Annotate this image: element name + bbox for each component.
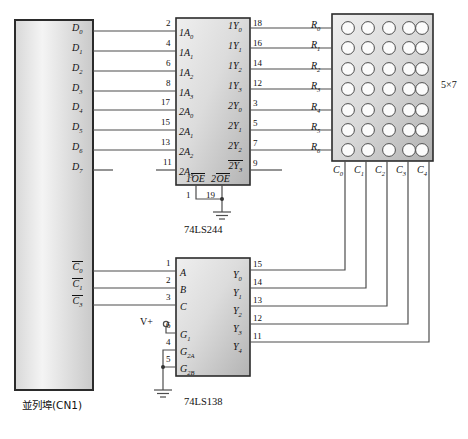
ls244-pinnum-9: 9 (253, 158, 258, 168)
junction-dot (161, 365, 165, 369)
ls244-output-1y1: 1Y1 (228, 40, 242, 53)
ls138-pinnum-11: 11 (253, 331, 262, 341)
ls244-output-2y0: 2Y0 (228, 100, 242, 113)
ls244-output-2y1: 2Y1 (228, 120, 242, 133)
junction-dot (220, 197, 224, 201)
ls244-output-1y0: 1Y0 (228, 20, 242, 33)
ls138-pinnum-2: 2 (166, 275, 171, 285)
matrix-row-r2: R2 (311, 60, 320, 73)
port-pin-d0: D0 (72, 22, 82, 35)
ls244-pinnum-18: 18 (253, 18, 262, 28)
column-select-wires (250, 161, 429, 342)
matrix-row-r4: R4 (311, 101, 320, 114)
ls138-pinnum-6: 6 (166, 320, 171, 330)
matrix-col-c0: C0 (333, 164, 343, 177)
matrix-col-c4: C4 (417, 164, 427, 177)
ls138-input-g2a: G2A (180, 346, 194, 359)
ls244-output-1y3: 1Y3 (228, 80, 242, 93)
matrix-col-c2: C2 (375, 164, 385, 177)
ls244-pinnum-12: 12 (253, 78, 262, 88)
ls138-input-g1: G1 (180, 329, 190, 342)
ls244-input-2a1: 2A1 (179, 126, 193, 139)
port-pin-d3: D3 (72, 82, 82, 95)
ls244-pinnum-2: 2 (166, 18, 171, 28)
ls138-caption: 74LS138 (184, 396, 223, 407)
ls244-pinnum-13: 13 (161, 137, 170, 147)
ls138-pinnum-12: 12 (253, 313, 262, 323)
ls244-input-1a2: 1A2 (179, 67, 193, 80)
ls244-enable-1oe: 1OE (186, 173, 205, 185)
ls244-caption: 74LS244 (184, 224, 223, 235)
ls244-pinnum-15: 15 (161, 117, 170, 127)
ls244-pinnum-8: 8 (166, 78, 171, 88)
ls244-pinnum-11: 11 (163, 157, 172, 167)
ls138-enable-ground (154, 350, 176, 397)
control-bus-wires (93, 271, 176, 305)
ls244-pinnum-7: 7 (253, 138, 258, 148)
port-pin-d7: D7 (72, 161, 82, 174)
matrix-row-r0: R0 (311, 19, 320, 32)
ls244-pinnum-19: 19 (206, 190, 215, 200)
ls138-pinnum-5: 5 (166, 354, 171, 364)
port-pin-d4: D4 (72, 101, 82, 114)
ls244-pinnum-5: 5 (253, 118, 258, 128)
ls138-output-y4: Y4 (233, 341, 242, 354)
port-pin-c0-bar: C0 (72, 261, 83, 275)
parallel-port-body (15, 20, 93, 390)
matrix-row-r1: R1 (311, 39, 320, 52)
ls138-pinnum-4: 4 (166, 337, 171, 347)
parallel-port-caption: 並列埠(CN1) (22, 397, 82, 412)
ls244-input-1a1: 1A1 (179, 47, 193, 60)
ls244-input-1a0: 1A0 (179, 27, 193, 40)
ls244-pinnum-17: 17 (161, 97, 170, 107)
port-pin-d6: D6 (72, 141, 82, 154)
ls244-pinnum-3: 3 (253, 98, 258, 108)
matrix-row-r5: R5 (311, 121, 320, 134)
ls138-pinnum-15: 15 (253, 259, 262, 269)
ls138-pinnum-3: 3 (166, 292, 171, 302)
port-pin-d2: D2 (72, 62, 82, 75)
ls244-pinnum-1: 1 (186, 190, 191, 200)
ls138-output-y0: Y0 (233, 269, 242, 282)
ls244-output-1y2: 1Y2 (228, 60, 242, 73)
ls244-pinnum-14: 14 (253, 58, 262, 68)
port-pin-c3-bar: C3 (72, 295, 83, 309)
matrix-row-r6: R6 (311, 141, 320, 154)
ls244-input-1a3: 1A3 (179, 87, 193, 100)
port-pin-d1: D1 (72, 42, 82, 55)
ls138-input-a: A (180, 267, 186, 280)
ls244-enable-2oe: 2OE (211, 173, 230, 185)
ls244-pinnum-4: 4 (166, 38, 171, 48)
circuit-diagram-canvas: 並列埠(CN1) D0 D1 D2 D3 D4 D5 D6 D7 C0 C1 C… (0, 0, 468, 439)
ls138-pinnum-13: 13 (253, 295, 262, 305)
ls138-pinnum-14: 14 (253, 277, 262, 287)
ls138-input-g2b: G2B (180, 363, 194, 376)
matrix-col-c3: C3 (396, 164, 406, 177)
ls244-output-2y3: 2Y3 (228, 160, 243, 174)
matrix-row-r3: R3 (311, 80, 320, 93)
matrix-col-c1: C1 (354, 164, 364, 177)
ls138-pinnum-1: 1 (166, 258, 171, 268)
ls138-output-y2: Y2 (233, 305, 242, 318)
ls138-output-y1: Y1 (233, 287, 242, 300)
ls138-input-c: C (180, 301, 187, 314)
matrix-size-label: 5×7 (441, 79, 457, 90)
ls244-pinnum-6: 6 (166, 58, 171, 68)
ls138-input-b: B (180, 284, 186, 297)
ls244-output-2y2: 2Y2 (228, 140, 242, 153)
ls244-pinnum-16: 16 (253, 38, 262, 48)
ls244-input-2a0: 2A0 (179, 106, 193, 119)
ls244-input-2a2: 2A2 (179, 146, 193, 159)
vcc-label: V+ (140, 316, 153, 327)
ls138-output-y3: Y3 (233, 323, 242, 336)
port-pin-c1-bar: C1 (72, 278, 83, 292)
port-pin-d5: D5 (72, 121, 82, 134)
